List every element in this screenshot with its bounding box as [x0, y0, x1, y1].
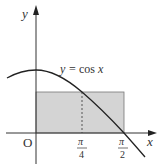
svg-text:2: 2	[120, 149, 125, 160]
tick-label-pi-over-4: π 4	[77, 136, 87, 160]
y-axis-label: y	[20, 6, 28, 21]
svg-text:cos: cos	[79, 62, 95, 76]
x-axis-label: x	[146, 134, 153, 149]
tick-label-pi-over-2: π 2	[118, 136, 128, 160]
svg-text:=: =	[69, 62, 76, 76]
svg-text:x: x	[97, 62, 104, 76]
y-axis-arrow-icon	[33, 5, 39, 15]
svg-text:y: y	[59, 62, 66, 76]
shaded-rectangle	[36, 92, 124, 133]
function-label: y = cos x	[59, 62, 104, 76]
svg-text:π: π	[78, 136, 84, 147]
origin-label: O	[23, 135, 32, 150]
svg-text:π: π	[119, 136, 125, 147]
svg-text:4: 4	[79, 149, 84, 160]
cosine-graph: y x O y = cos x π 4 π 2	[0, 0, 162, 168]
